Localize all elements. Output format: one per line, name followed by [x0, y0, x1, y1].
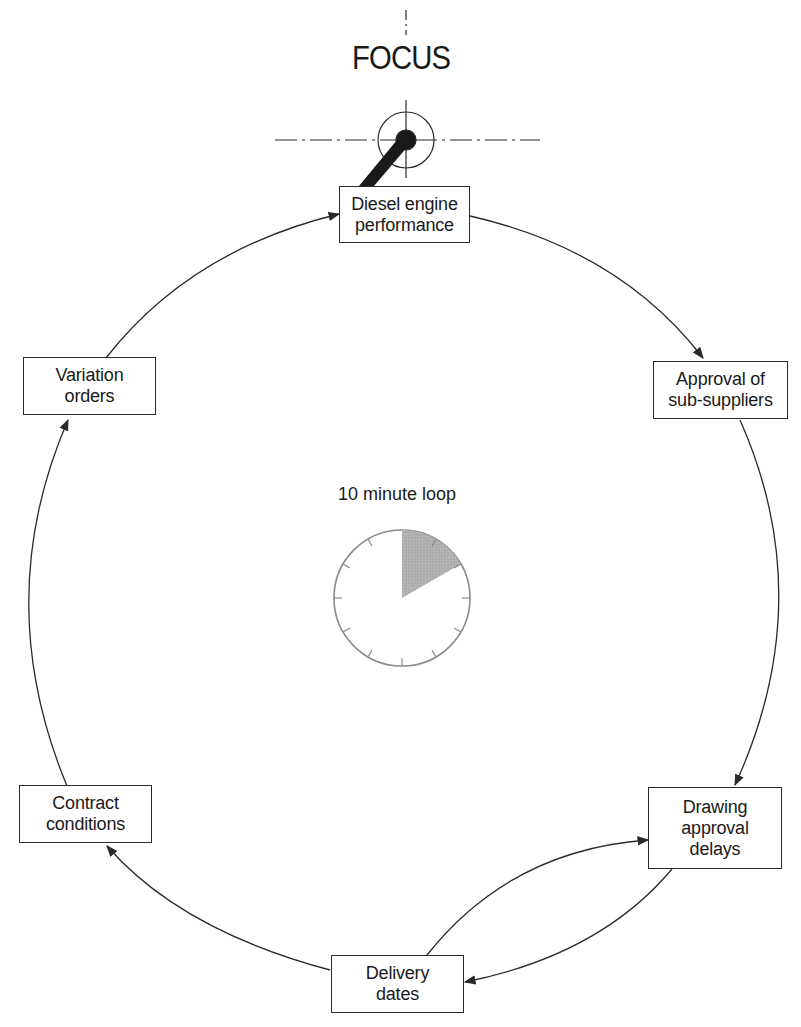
node-contract-conditions: Contract conditions	[19, 785, 152, 843]
edge-approval-to-drawing	[735, 420, 779, 785]
diagram-canvas	[0, 0, 801, 1027]
node-label-line: Approval of	[676, 369, 765, 390]
node-label-line: sub-suppliers	[668, 390, 772, 411]
node-variation-orders: Variation orders	[23, 357, 156, 415]
node-label-line: dates	[376, 984, 419, 1005]
node-label-line: Variation	[56, 365, 124, 386]
node-diesel-engine-performance: Diesel engine performance	[339, 186, 470, 243]
node-label-line: Diesel engine	[351, 194, 457, 215]
node-label-line: Drawing	[683, 797, 748, 818]
node-label-line: orders	[65, 386, 115, 407]
focus-label: FOCUS	[352, 38, 450, 77]
edge-delivery-to-drawing	[427, 840, 648, 955]
loop-label: 10 minute loop	[338, 484, 456, 505]
node-label-line: performance	[355, 215, 454, 236]
node-label-line: approval	[681, 818, 748, 839]
node-drawing-approval-delays: Drawing approval delays	[648, 787, 782, 869]
clock-icon	[334, 530, 470, 666]
node-label-line: conditions	[46, 814, 125, 835]
node-label-line: Contract	[52, 793, 118, 814]
edge-contract-to-variation	[29, 420, 68, 786]
edge-variation-to-diesel	[106, 214, 339, 358]
node-delivery-dates: Delivery dates	[331, 955, 464, 1013]
focus-crosshair-icon	[275, 10, 540, 186]
edge-drawing-to-delivery	[465, 869, 672, 982]
node-approval-of-sub-suppliers: Approval of sub-suppliers	[653, 361, 788, 419]
edge-delivery-to-contract	[107, 846, 330, 970]
node-label-line: Delivery	[366, 963, 429, 984]
edge-diesel-to-approval	[470, 216, 703, 358]
node-label-line: delays	[690, 839, 741, 860]
